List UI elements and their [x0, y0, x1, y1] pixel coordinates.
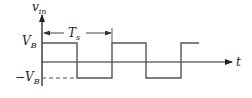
low-level-label: −VB: [15, 70, 40, 86]
y-axis-label: vin: [32, 0, 47, 16]
square-wave-diagram: vin Ts VB −VB t: [0, 0, 252, 98]
x-axis-label: t: [236, 55, 241, 69]
square-waveform: [42, 43, 199, 78]
high-level-label: VB: [22, 34, 37, 50]
